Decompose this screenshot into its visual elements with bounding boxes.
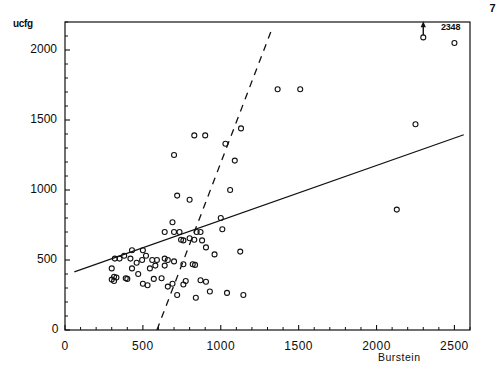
data-point	[144, 253, 149, 258]
data-point	[109, 266, 114, 271]
scatter-plot-figure: ucfg 7 2348 Burstein 0500100015002000 05…	[0, 0, 500, 376]
data-point	[452, 41, 457, 46]
x-tick-label: 0	[42, 339, 88, 353]
data-point	[162, 230, 167, 235]
data-point	[225, 290, 230, 295]
data-point	[145, 283, 150, 288]
data-point	[228, 188, 233, 193]
data-point	[140, 248, 145, 253]
data-point	[172, 230, 177, 235]
data-point	[129, 266, 134, 271]
data-point	[140, 258, 145, 263]
data-point	[193, 295, 198, 300]
data-point	[203, 133, 208, 138]
x-tick-label: 2500	[431, 339, 477, 353]
data-points	[109, 35, 457, 300]
data-point	[212, 252, 217, 257]
x-tick-label: 500	[120, 339, 166, 353]
data-point	[170, 220, 175, 225]
data-point	[153, 263, 158, 268]
axis-ticks	[65, 22, 470, 330]
data-point	[275, 87, 280, 92]
data-point	[413, 122, 418, 127]
data-point	[165, 284, 170, 289]
x-tick-label: 1500	[276, 339, 322, 353]
data-point	[187, 197, 192, 202]
y-tick-label: 2000	[13, 42, 57, 56]
regression-solid	[74, 135, 463, 272]
x-tick-label: 2000	[354, 339, 400, 353]
y-tick-label: 1000	[13, 182, 57, 196]
data-point	[298, 87, 303, 92]
data-point	[136, 272, 141, 277]
data-point	[232, 158, 237, 163]
data-point	[394, 207, 399, 212]
data-point	[220, 227, 225, 232]
data-point	[203, 279, 208, 284]
x-tick-label: 1000	[198, 339, 244, 353]
data-point	[175, 193, 180, 198]
axes-frame	[65, 22, 470, 330]
data-point	[198, 278, 203, 283]
data-point	[239, 126, 244, 131]
data-point	[172, 259, 177, 264]
data-point	[172, 153, 177, 158]
data-point	[241, 293, 246, 298]
y-tick-label: 500	[13, 252, 57, 266]
data-point	[134, 260, 139, 265]
data-point	[223, 141, 228, 146]
data-point	[175, 293, 180, 298]
data-point	[203, 245, 208, 250]
y-tick-label: 1500	[13, 112, 57, 126]
data-point	[207, 289, 212, 294]
data-point	[162, 263, 167, 268]
data-point	[159, 276, 164, 281]
data-point	[170, 281, 175, 286]
y-tick-label: 0	[41, 322, 59, 336]
data-point	[200, 238, 205, 243]
data-point	[238, 249, 243, 254]
annotation-arrow	[421, 21, 426, 35]
plot-canvas	[0, 0, 500, 376]
fit-lines	[74, 28, 463, 330]
data-point	[147, 266, 152, 271]
data-point	[421, 35, 426, 40]
data-point	[128, 256, 133, 261]
data-point	[151, 276, 156, 281]
data-point	[177, 230, 182, 235]
data-point	[192, 133, 197, 138]
